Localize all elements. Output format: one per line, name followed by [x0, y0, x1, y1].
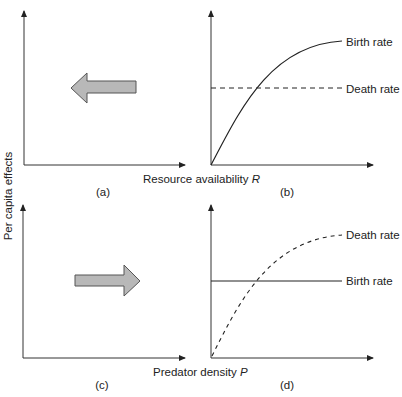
panel-d-label: (d) — [280, 379, 294, 391]
panel-d: Death rate Birth rate (d) — [211, 205, 400, 391]
panel-b-death-rate-label: Death rate — [346, 83, 400, 95]
panel-a-label: (a) — [96, 186, 110, 198]
panel-c: (c) — [23, 205, 185, 391]
panel-d-birth-rate-label: Birth rate — [346, 275, 393, 287]
x-axis-label-predator: Predator density P — [153, 366, 248, 378]
x-axis-label-resource: Resource availability R — [143, 173, 260, 185]
panel-b: Birth rate Death rate (b) — [211, 11, 400, 198]
left-arrow-icon — [71, 73, 136, 103]
right-arrow-icon — [75, 265, 140, 296]
panel-b-label: (b) — [280, 186, 294, 198]
panel-b-birth-rate-curve — [211, 41, 342, 165]
panel-c-label: (c) — [95, 379, 109, 391]
y-axis-label: Per capita effects — [2, 151, 14, 240]
panel-d-death-rate-curve — [212, 235, 342, 356]
panel-b-birth-rate-label: Birth rate — [346, 36, 393, 48]
panel-a: (a) — [24, 11, 185, 198]
panel-d-death-rate-label: Death rate — [346, 229, 400, 241]
figure-canvas: Per capita effects (a) Birth rate Death … — [0, 0, 402, 397]
